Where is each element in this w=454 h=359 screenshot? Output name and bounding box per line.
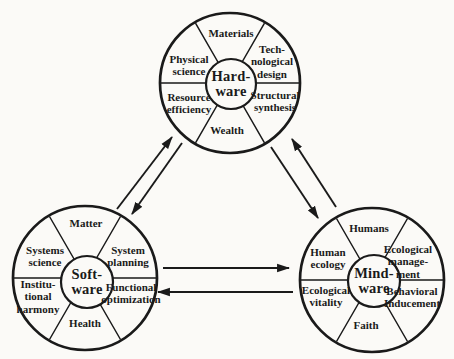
segment-label-resource-efficiency: Resource efficiency xyxy=(167,91,212,116)
arrow-mindware-to-hardware xyxy=(292,139,336,207)
arrow-hardware-to-mindware xyxy=(271,147,318,218)
hub-label-software: Soft- ware xyxy=(71,267,102,297)
segment-label-physical-science: Physical science xyxy=(169,53,208,78)
segment-label-ecological-vitality: Ecological vitality xyxy=(302,284,350,309)
segment-label-faith: Faith xyxy=(353,319,378,331)
segment-label-system-planning: System planning xyxy=(107,244,149,269)
segment-label-health: Health xyxy=(69,317,101,329)
segment-label-structural-synthesis: Structural synthesis xyxy=(251,89,300,114)
segment-label-materials: Materials xyxy=(208,27,253,39)
segment-label-humans: Humans xyxy=(349,222,389,234)
segment-label-systems-science: Systems science xyxy=(26,244,64,269)
segment-label-wealth: Wealth xyxy=(210,124,244,136)
exchange-arrows xyxy=(117,137,336,292)
wheel-triangle-diagram: Materials Physical science Tech- nologic… xyxy=(0,0,454,359)
arrow-software-to-hardware xyxy=(117,137,172,209)
segment-label-institutional-harmony: Institu- tional harmony xyxy=(17,278,60,315)
segment-label-technological-design: Tech- nological design xyxy=(251,43,293,80)
segment-label-human-ecology: Human ecology xyxy=(310,246,345,271)
segment-label-matter: Matter xyxy=(70,217,103,229)
hub-label-hardware: Hard- ware xyxy=(212,69,251,99)
segment-label-functional-optimization: Functional optimization xyxy=(101,281,160,306)
hub-label-mindware: Mind- ware xyxy=(354,266,394,296)
